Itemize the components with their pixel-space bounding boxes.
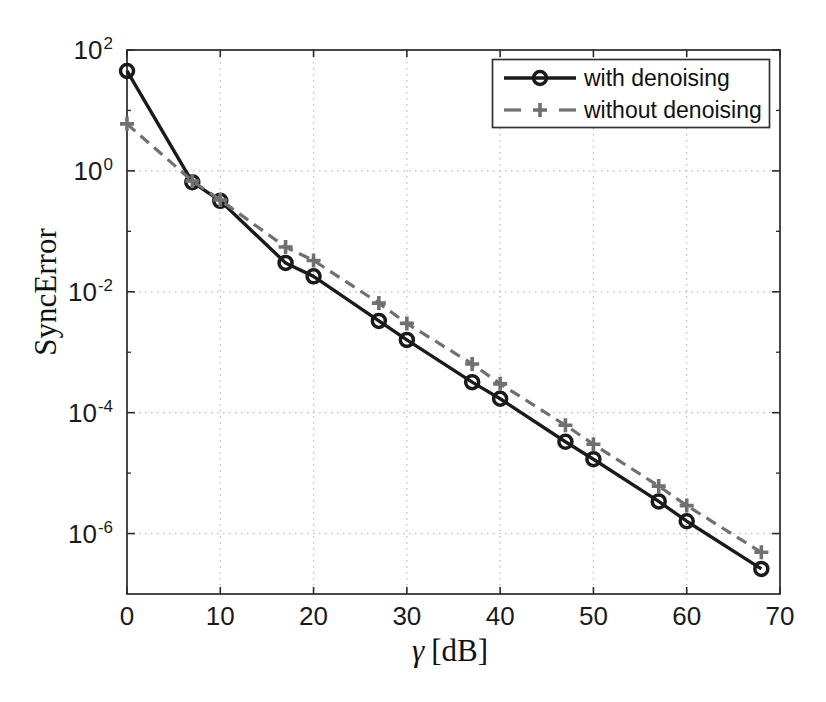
gamma-symbol: γ [412, 633, 424, 668]
legend-label-without-denoising: without denoising [584, 97, 762, 124]
series-line-1 [127, 124, 761, 552]
plus-marker [279, 240, 293, 254]
x-axis-unit: [dB] [431, 633, 488, 668]
plus-marker [493, 377, 507, 391]
legend-label-with-denoising: with denoising [584, 65, 730, 92]
figure-canvas: 10210010-210-410-6010203040506070 SyncEr… [0, 0, 826, 702]
y-axis-label: SyncError [28, 228, 64, 355]
x-axis-label: γ[dB] [412, 633, 488, 669]
axis-box [127, 50, 780, 594]
series-line-0 [127, 71, 761, 569]
